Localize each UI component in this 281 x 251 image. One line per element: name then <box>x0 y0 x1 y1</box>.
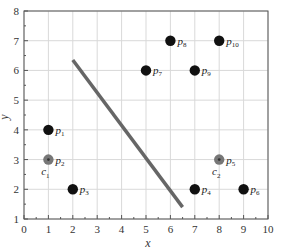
point-label: p7 <box>152 64 163 78</box>
data-point-p1: p1 <box>43 124 65 138</box>
y-tick-label: 6 <box>14 64 20 76</box>
point-label: p9 <box>201 64 212 78</box>
data-point-p2: c1p2 <box>41 154 65 180</box>
y-tick-label: 4 <box>14 124 20 136</box>
data-point-p10: p10 <box>214 35 239 49</box>
point-label: p2 <box>54 154 65 168</box>
scatter-chart: 01234567891012345678 x y p1c1p2p3p4c2p5p… <box>0 0 281 251</box>
x-tick-label: 10 <box>263 223 275 235</box>
point-label: p6 <box>250 183 261 197</box>
y-tick-label: 5 <box>14 94 20 106</box>
y-tick-label: 2 <box>14 183 20 195</box>
y-tick-label: 1 <box>14 213 20 225</box>
separating-line <box>73 60 183 207</box>
x-axis-label: x <box>144 236 151 250</box>
point-label: p10 <box>225 35 239 49</box>
point-label: p1 <box>54 124 65 138</box>
x-tick-label: 8 <box>216 223 222 235</box>
data-points: p1c1p2p3p4c2p5p6p7p8p9p10 <box>41 35 260 198</box>
data-point-p6: p6 <box>238 183 260 197</box>
point-label: p5 <box>225 154 236 168</box>
x-tick-label: 9 <box>241 223 247 235</box>
y-tick-label: 7 <box>14 35 20 47</box>
x-tick-label: 1 <box>46 223 52 235</box>
data-point-p4: p4 <box>190 183 212 197</box>
data-point-p5: c2p5 <box>212 154 236 180</box>
point-label: p4 <box>201 183 212 197</box>
x-tick-label: 5 <box>143 223 149 235</box>
x-tick-label: 7 <box>192 223 198 235</box>
point-label: p8 <box>176 35 187 49</box>
x-tick-label: 2 <box>70 223 76 235</box>
data-point-p9: p9 <box>190 64 212 78</box>
y-tick-label: 8 <box>14 5 20 17</box>
point-label: p3 <box>79 183 90 197</box>
y-axis-label: y <box>0 114 11 121</box>
data-point-p3: p3 <box>68 183 90 197</box>
data-point-p7: p7 <box>141 64 163 78</box>
tick-labels: 01234567891012345678 <box>14 5 275 235</box>
data-point-p8: p8 <box>165 35 187 49</box>
x-tick-label: 3 <box>94 223 100 235</box>
x-tick-label: 0 <box>21 223 27 235</box>
y-tick-label: 3 <box>14 154 20 166</box>
x-tick-label: 4 <box>119 223 125 235</box>
x-tick-label: 6 <box>168 223 174 235</box>
